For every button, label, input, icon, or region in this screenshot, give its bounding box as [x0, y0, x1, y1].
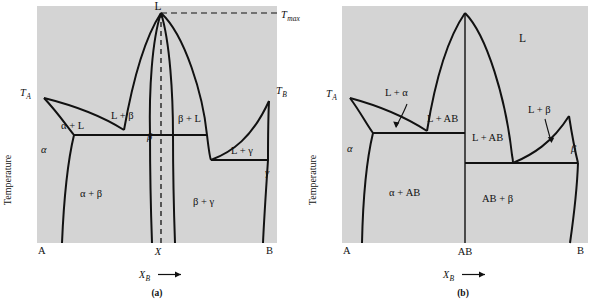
label-composition-X: X — [154, 246, 162, 257]
label-L-plus-gamma: L + γ — [231, 145, 253, 156]
label-corner-B: B — [266, 245, 273, 256]
panel-b-caption: (b) — [457, 288, 469, 299]
label-alpha-plus-beta: α + β — [80, 188, 102, 199]
label-beta-plus-gamma: β + γ — [193, 196, 215, 207]
label-alpha-plus-L: α + L — [61, 120, 84, 131]
panel-a-x-arrow-head — [175, 272, 181, 278]
label-beta-plus-L: β + L — [178, 113, 201, 124]
panel-b-label-alpha-plus-AB: α + AB — [389, 187, 420, 198]
panel-b-x-arrow-head — [479, 272, 485, 278]
label-L-plus-beta: L + β — [111, 110, 134, 121]
label-tb: TB — [276, 85, 287, 99]
panel-a-y-axis-title: Temperature — [2, 154, 13, 205]
panel-b-label-beta: β — [570, 143, 577, 154]
label-alpha: α — [41, 144, 47, 155]
label-tmax: Tmax — [281, 9, 301, 23]
label-liquid-apex: L — [154, 0, 161, 12]
panel-b-label-L-plus-beta: L + β — [528, 104, 551, 115]
panel-b-x-axis-label: XB — [442, 269, 455, 283]
panel-a-x-axis-label: XB — [138, 269, 151, 283]
panel-b-label-liquid: L — [519, 32, 526, 44]
phase-diagram-figure: L Tmax TA TB α α + L L + β β β + L L + γ… — [0, 0, 599, 301]
panel-b-label-ta: TA — [326, 88, 337, 102]
panel-b-y-axis-title: Temperature — [307, 154, 318, 205]
label-corner-A: A — [38, 245, 46, 256]
label-beta-field: β — [146, 131, 153, 142]
panel-b-label-L-plus-AB-mid: L + AB — [472, 132, 503, 143]
label-ta: TA — [20, 87, 31, 101]
panel-b-label-composition-AB: AB — [458, 246, 473, 257]
panel-a-caption: (a) — [151, 288, 162, 299]
panel-b-label-corner-B: B — [577, 245, 584, 256]
gamma-solidus — [268, 101, 269, 160]
panel-b: L TA α β L + α L + β L + AB L + AB α + A… — [307, 6, 588, 299]
panel-b-label-L-plus-alpha: L + α — [385, 87, 408, 98]
panel-b-label-AB-plus-beta: AB + β — [482, 193, 513, 204]
figure-svg: L Tmax TA TB α α + L L + β β β + L L + γ… — [0, 0, 599, 301]
panel-a: L Tmax TA TB α α + L L + β β β + L L + γ… — [2, 0, 301, 299]
panel-b-label-alpha: α — [347, 143, 353, 154]
panel-b-label-L-plus-AB-left: L + AB — [427, 113, 458, 124]
panel-b-label-corner-A: A — [343, 245, 351, 256]
